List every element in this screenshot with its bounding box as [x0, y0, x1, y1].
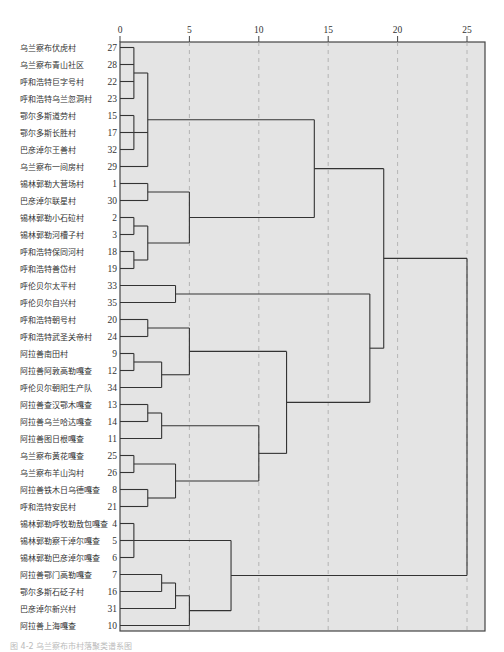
x-tick-label: 0 — [118, 25, 123, 35]
leaf-id: 9 — [112, 349, 117, 359]
leaf-id: 13 — [108, 400, 118, 410]
leaf-name: 呼和浩特安民村 — [20, 502, 76, 512]
leaf-id: 28 — [108, 60, 118, 70]
leaf-id: 33 — [108, 281, 118, 291]
leaf-id: 24 — [108, 332, 118, 342]
x-tick-label: 10 — [254, 25, 264, 35]
leaf-id: 10 — [108, 621, 118, 631]
leaf-name: 巴彦淖尔新兴村 — [20, 604, 76, 614]
x-tick-label: 20 — [393, 25, 403, 35]
leaf-id: 2 — [112, 213, 117, 223]
leaf-name: 锡林郭勒巴彦淖尔嘎查 — [20, 553, 100, 563]
leaf-name: 锡林郭勒小石砬村 — [20, 213, 84, 223]
leaf-name: 呼和浩特巨字号村 — [20, 77, 84, 87]
leaf-name: 鄂尔多斯石砭子村 — [20, 587, 84, 597]
leaf-name: 鄂尔多斯道劳村 — [20, 111, 76, 121]
leaf-name: 呼和浩特善岱村 — [20, 264, 76, 274]
leaf-name: 呼伦贝尔自兴村 — [20, 298, 76, 308]
x-tick-label: 25 — [462, 25, 472, 35]
leaf-id: 3 — [112, 230, 117, 240]
leaf-name: 巴彦淖尔联星村 — [20, 196, 76, 206]
leaf-id: 15 — [108, 111, 118, 121]
leaf-id: 6 — [112, 553, 117, 563]
leaf-name: 锡林郭勒察干淖尔嘎查 — [20, 536, 100, 546]
leaf-name: 乌兰察布伏虎村 — [20, 43, 76, 53]
leaf-name: 阿拉善图日根嘎查 — [20, 434, 84, 444]
leaf-id: 27 — [108, 43, 118, 53]
leaf-id: 1 — [112, 179, 117, 189]
leaf-id: 14 — [108, 417, 118, 427]
leaf-name: 呼和浩特乌兰忽洞村 — [20, 94, 92, 104]
leaf-id: 22 — [108, 77, 118, 87]
leaf-name: 呼伦贝尔太平村 — [20, 281, 76, 291]
leaf-id: 4 — [112, 519, 117, 529]
leaf-name: 巴彦淖尔王善村 — [20, 145, 76, 155]
leaf-name: 乌兰察布黄花嘎查 — [20, 451, 84, 461]
plot-area — [120, 42, 485, 631]
leaf-id: 21 — [108, 502, 118, 512]
leaf-id: 30 — [108, 196, 118, 206]
leaf-id: 32 — [108, 145, 118, 155]
dendrogram-chart: 0510152025 乌兰察布伏虎村27乌兰察布青山社区28呼和浩特巨字号村22… — [0, 0, 504, 652]
leaf-name: 阿拉善上海嘎查 — [20, 621, 76, 631]
leaf-id: 23 — [108, 94, 118, 104]
figure-caption: 图 4-2 乌兰察布市村落聚类谱系图 — [10, 640, 132, 651]
leaf-name: 呼和浩特武圣关帝村 — [20, 332, 92, 342]
leaf-id: 35 — [108, 298, 118, 308]
leaf-name: 阿拉善查汉鄂木嘎查 — [20, 400, 92, 410]
leaf-id: 19 — [108, 264, 118, 274]
leaf-name: 锡林郭勒大营场村 — [20, 179, 84, 189]
leaf-name: 阿拉善铁木日乌德嘎查 — [20, 485, 100, 495]
leaf-id: 12 — [108, 366, 118, 376]
leaf-name: 呼和浩特朝号村 — [20, 315, 76, 325]
leaf-name: 乌兰察布羊山沟村 — [20, 468, 84, 478]
leaf-name: 锡林郭勒呼牧勒敖包嘎查 — [20, 519, 108, 529]
leaf-id: 16 — [108, 587, 118, 597]
leaf-id: 20 — [108, 315, 118, 325]
leaf-id: 18 — [108, 247, 118, 257]
leaf-name: 呼和浩特保同河村 — [20, 247, 84, 257]
leaf-name: 阿拉善阿敦高勒嘎查 — [20, 366, 92, 376]
leaf-id: 8 — [112, 485, 117, 495]
leaf-name: 呼伦贝尔朝阳生产队 — [20, 383, 92, 393]
leaf-id: 34 — [108, 383, 118, 393]
leaf-id: 5 — [112, 536, 117, 546]
leaf-id: 25 — [108, 451, 118, 461]
leaf-name: 阿拉善鄂门高勒嘎查 — [20, 570, 92, 580]
leaf-name: 阿拉善乌兰哈达嘎查 — [20, 417, 92, 427]
leaf-name: 阿拉善南田村 — [20, 349, 68, 359]
x-tick-label: 15 — [323, 25, 333, 35]
leaf-name: 乌兰察布一间房村 — [20, 162, 84, 172]
leaf-name: 锡林郭勒河槽子村 — [20, 230, 84, 240]
leaf-id: 7 — [112, 570, 117, 580]
leaf-id: 26 — [108, 468, 118, 478]
leaf-name: 乌兰察布青山社区 — [20, 60, 84, 70]
leaf-id: 29 — [108, 162, 118, 172]
leaf-id: 17 — [108, 128, 118, 138]
leaf-name: 鄂尔多斯长胜村 — [20, 128, 76, 138]
leaf-id: 11 — [108, 434, 117, 444]
x-tick-label: 5 — [187, 25, 192, 35]
leaf-id: 31 — [108, 604, 118, 614]
